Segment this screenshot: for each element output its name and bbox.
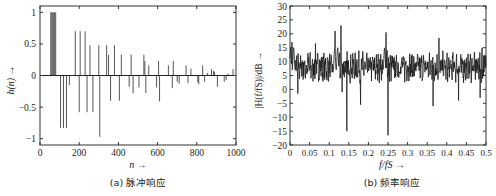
x-tick-label: 0.35 [419, 148, 435, 158]
y-tick-label: 25 [278, 15, 288, 25]
y-tick-label: 0.5 [24, 39, 36, 49]
x-tick-label: 0.5 [480, 148, 492, 158]
y-tick-label: 5 [282, 71, 287, 81]
x-tick-label: 1000 [227, 148, 246, 158]
y-tick-label: 0 [31, 71, 36, 81]
x-tick-label: 0 [288, 148, 293, 158]
panel-b-caption: (b) 频率响应 [364, 177, 420, 188]
y-tick-label: 10 [278, 57, 288, 67]
impulse-response-chart: 02004006008001000−1−0.500.51 h(n) → n → … [5, 6, 246, 188]
x-axis-label: f/fS → [379, 159, 405, 170]
y-tick-label: −10 [272, 113, 287, 123]
x-tick-label: 0.4 [441, 148, 453, 158]
figure: 02004006008001000−1−0.500.51 h(n) → n → … [0, 0, 496, 196]
y-axis-label: |H(f/fS)|/dB → [254, 52, 265, 109]
y-tick-label: −1 [26, 134, 36, 144]
x-tick-label: 0.15 [341, 148, 357, 158]
x-tick-label: 200 [72, 148, 87, 158]
panel-a-caption: (a) 脉冲响应 [110, 177, 166, 188]
y-tick-label: 1 [31, 8, 36, 18]
x-tick-label: 0.1 [324, 148, 335, 158]
magnitude-curve [290, 25, 486, 135]
stems [51, 12, 233, 136]
y-tick-label: 0 [282, 85, 287, 95]
x-tick-label: 0.45 [459, 148, 475, 158]
y-tick-label: −0.5 [19, 103, 36, 113]
y-tick-label: −15 [272, 127, 287, 137]
y-tick-label: 30 [278, 2, 288, 12]
y-axis-label: h(n) → [5, 65, 17, 94]
y-tick-label: 15 [278, 43, 288, 53]
x-axis-label: n → [129, 159, 147, 170]
y-tick-label: 20 [278, 29, 288, 39]
x-tick-label: 0.05 [302, 148, 318, 158]
x-tick-label: 0.3 [402, 148, 414, 158]
figure-canvas: 02004006008001000−1−0.500.51 h(n) → n → … [0, 0, 496, 196]
x-tick-label: 800 [190, 148, 205, 158]
frequency-response-chart: 00.050.10.150.20.250.30.350.40.450.5−20−… [254, 2, 492, 189]
x-tick-label: 0 [38, 148, 43, 158]
x-tick-label: 400 [111, 148, 126, 158]
y-tick-label: −5 [277, 99, 287, 109]
x-tick-label: 0.2 [363, 148, 374, 158]
x-tick-label: 600 [150, 148, 165, 158]
x-tick-label: 0.25 [380, 148, 396, 158]
y-tick-label: −20 [272, 141, 287, 151]
